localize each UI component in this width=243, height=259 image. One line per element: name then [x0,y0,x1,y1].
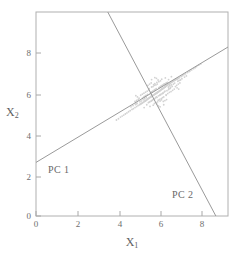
scatter-point [167,86,169,88]
scatter-point [135,104,137,106]
scatter-point [120,116,122,118]
scatter-point [126,112,128,114]
scatter-point [128,111,130,113]
scatter-point [129,110,131,112]
scatter-point [121,115,123,117]
scatter-point [169,88,171,90]
scatter-point [141,93,143,95]
scatter-point [172,89,174,91]
scatter-point [141,102,143,104]
y-axis-title-subscript: 2 [15,111,19,120]
scatter-point [159,94,161,96]
scatter-point [162,101,164,103]
scatter-point [159,98,161,100]
scatter-point [156,96,158,98]
scatter-point [155,92,157,94]
scatter-point [150,82,152,84]
scatter-point [162,97,164,99]
scatter-point [123,114,125,116]
scatter-point [131,109,133,111]
pca-scatter-figure: 0 2 4 6 8 0 2 4 6 8 X1 X2 PC 1 PC 2 [0,0,243,259]
scatter-point [159,100,161,102]
scatter-point [164,100,166,102]
scatter-point [151,79,153,81]
y-tick-label-2: 2 [27,172,32,182]
scatter-point [168,91,170,93]
scatter-point [134,107,136,109]
scatter-point [179,82,181,84]
scatter-point [159,106,161,108]
scatter-point [158,81,160,83]
scatter-point [140,94,142,96]
scatter-point [144,100,146,102]
scatter-point [148,101,150,103]
scatter-point [161,99,163,101]
scatter-point [161,78,163,80]
scatter-point [177,83,179,85]
scatter-point [139,104,141,106]
scatter-point [149,105,151,107]
scatter-point [161,88,163,90]
pc2-label: PC 2 [172,189,193,200]
y-axis-title-base: X [6,105,15,119]
scatter-point [143,107,145,109]
scatter-point [148,97,150,99]
scatter-point [145,91,147,93]
scatter-point [135,95,137,97]
scatter-point [185,75,187,77]
scatter-point [157,101,159,103]
pc1-label: PC 1 [48,164,69,175]
scatter-point [159,90,161,92]
scatter-point [174,82,176,84]
scatter-point [168,79,170,81]
scatter-point [154,103,156,105]
scatter-point [164,86,166,88]
x-axis-title-base: X [126,235,135,249]
scatter-point [137,96,139,98]
scatter-point [170,91,172,93]
scatter-point [166,90,168,92]
scatter-point [169,85,171,87]
scatter-point [181,78,183,80]
x-tick-label-2: 2 [76,219,81,229]
y-tick-label-8: 8 [27,48,32,58]
scatter-point [142,99,144,101]
scatter-point [173,88,175,90]
scatter-point [167,93,169,95]
scatter-point [178,80,180,82]
scatter-point [149,83,151,85]
x-tick-label-8: 8 [200,219,205,229]
x-axis-title: X1 [126,235,139,250]
scatter-point [171,85,173,87]
scatter-point [166,99,168,101]
scatter-point [156,82,158,84]
scatter-point [163,104,165,106]
scatter-point [157,79,159,81]
x-tick-label-6: 6 [159,219,164,229]
scatter-point [162,92,164,94]
y-tick-label-6: 6 [27,90,32,100]
scatter-point [178,88,180,90]
scatter-point [171,76,173,78]
scatter-point [136,106,138,108]
scatter-point [153,84,155,86]
scatter-point [151,100,153,102]
x-axis-title-subscript: 1 [134,241,138,250]
scatter-point [143,92,145,94]
scatter-point [165,94,167,96]
y-tick-label-0: 0 [27,211,32,221]
scatter-point [152,104,154,106]
scatter-point [146,90,148,92]
x-tick-label-0: 0 [34,219,39,229]
scatter-point [145,97,147,99]
scatter-point [146,104,148,106]
y-tick-label-4: 4 [27,131,32,141]
scatter-point [167,84,169,86]
scatter-point [152,86,154,88]
scatter-point [168,89,170,91]
scatter-point [146,99,148,101]
x-tick-label-4: 4 [118,219,123,229]
scatter-point [175,86,177,88]
scatter-point [156,77,158,79]
scatter-point [144,98,146,100]
